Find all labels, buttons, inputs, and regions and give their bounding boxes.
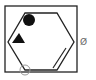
- puzzle-figure: Ø: [0, 0, 96, 80]
- outside-mark: Ø: [80, 37, 87, 47]
- filled-triangle-icon: [12, 33, 25, 43]
- filled-circle-icon: [23, 14, 35, 26]
